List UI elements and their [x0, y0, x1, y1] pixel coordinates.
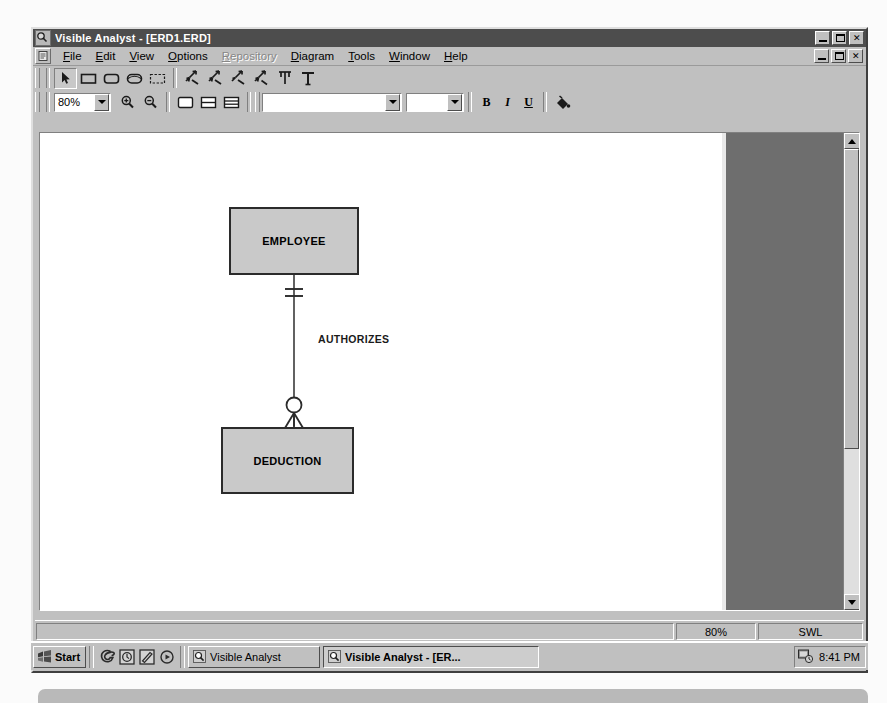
toolbar-separator [468, 92, 472, 112]
taskbar-divider [180, 646, 185, 668]
bold-button[interactable]: B [476, 92, 497, 112]
entity-deduction-label: DEDUCTION [253, 455, 321, 467]
menu-item-tools[interactable]: Tools [341, 49, 382, 63]
window-titlebar[interactable]: Visible Analyst - [ERD1.ERD] ✕ [33, 29, 866, 47]
menu-item-help[interactable]: Help [437, 49, 475, 63]
toolbar-separator [543, 92, 547, 112]
magnifier-icon [328, 650, 341, 663]
entity-rectangle-tool[interactable] [77, 68, 100, 89]
menu-item-options[interactable]: Options [161, 49, 215, 63]
view-list-button[interactable] [220, 92, 243, 113]
relationship-optional-tool[interactable] [227, 68, 250, 89]
font-family-combo[interactable] [262, 93, 402, 112]
document-client-area: EMPLOYEE DEDUCTION AUTHORIZES [35, 129, 864, 614]
text-tool[interactable] [296, 68, 319, 89]
screenshot-root: Visible Analyst - [ERD1.ERD] ✕ FileEditV… [0, 0, 887, 703]
zoom-level-value: 80% [55, 96, 94, 108]
toolbar-separator [166, 92, 170, 112]
zoom-level-combo[interactable]: 80% [54, 93, 111, 112]
font-size-combo[interactable] [406, 93, 464, 112]
toolbar-grip[interactable] [35, 92, 40, 112]
attributive-entity-tool[interactable] [123, 68, 146, 89]
windows-flag-icon [37, 650, 52, 664]
tray-status-icon[interactable] [798, 649, 814, 665]
task-label: Visible Analyst - [ER... [345, 651, 461, 663]
er-diagram: EMPLOYEE DEDUCTION AUTHORIZES [40, 133, 722, 610]
chevron-down-icon[interactable] [94, 94, 109, 111]
menu-item-repository[interactable]: Repository [215, 49, 284, 63]
child-window-controls: ✕ [814, 49, 866, 63]
associative-entity-tool[interactable] [146, 68, 169, 89]
relationship-many-tool[interactable] [204, 68, 227, 89]
entity-employee[interactable]: EMPLOYEE [229, 207, 359, 275]
chevron-down-icon[interactable] [447, 94, 462, 111]
relationship-one-tool[interactable] [181, 68, 204, 89]
status-mode: SWL [758, 623, 863, 640]
diagram-canvas-frame: EMPLOYEE DEDUCTION AUTHORIZES [39, 132, 860, 611]
diagram-page[interactable]: EMPLOYEE DEDUCTION AUTHORIZES [40, 133, 722, 610]
outlook-express-icon[interactable] [117, 647, 137, 667]
supertype-line-tool[interactable] [273, 68, 296, 89]
chevron-down-icon[interactable] [385, 94, 400, 111]
drawing-toolbar [33, 66, 866, 90]
toolbar-grip[interactable] [255, 92, 260, 112]
scroll-thumb[interactable] [844, 149, 859, 449]
status-bar: 80% SWL [35, 620, 864, 642]
window-title: Visible Analyst - [ERD1.ERD] [55, 32, 815, 44]
task-visible-analyst[interactable]: Visible Analyst [188, 646, 320, 668]
child-minimize-button[interactable] [814, 49, 829, 63]
toolbar-grip[interactable] [35, 68, 40, 88]
italic-button[interactable]: I [497, 92, 518, 112]
media-player-icon[interactable] [157, 647, 177, 667]
menu-item-file[interactable]: File [56, 49, 89, 63]
show-desktop-icon[interactable] [137, 647, 157, 667]
menu-bar: FileEditViewOptionsRepositoryDiagramTool… [33, 47, 866, 66]
menu-item-window[interactable]: Window [382, 49, 437, 63]
menu-item-diagram[interactable]: Diagram [284, 49, 341, 63]
close-button[interactable]: ✕ [849, 31, 864, 45]
toolbar-separator [46, 92, 50, 112]
view-split-button[interactable] [197, 92, 220, 113]
zoom-out-button[interactable] [139, 92, 162, 113]
relationship-authorizes-label[interactable]: AUTHORIZES [318, 333, 389, 345]
taskbar-divider [89, 646, 94, 668]
relationship-connector [40, 133, 722, 603]
toolbar-separator [247, 92, 251, 112]
window-controls: ✕ [815, 31, 864, 45]
relationship-mandatory-tool[interactable] [250, 68, 273, 89]
internet-explorer-icon[interactable] [97, 647, 117, 667]
windows-taskbar: Start [31, 641, 868, 670]
status-zoom: 80% [676, 623, 756, 640]
minimize-button[interactable] [815, 31, 830, 45]
magnifier-icon [193, 650, 206, 663]
format-toolbar: 80% [33, 90, 866, 114]
menu-item-edit[interactable]: Edit [89, 49, 123, 63]
vertical-scrollbar[interactable] [843, 133, 859, 610]
entity-employee-label: EMPLOYEE [262, 235, 326, 247]
visible-analyst-window: Visible Analyst - [ERD1.ERD] ✕ FileEditV… [31, 27, 868, 673]
system-tray: 8:41 PM [794, 646, 866, 668]
underline-button[interactable]: U [518, 92, 539, 112]
page-footer-bar [38, 689, 868, 703]
scroll-track[interactable] [844, 149, 859, 594]
paint-color-icon[interactable] [551, 92, 574, 113]
document-icon[interactable] [35, 48, 51, 64]
child-close-button[interactable]: ✕ [848, 49, 863, 63]
view-normal-button[interactable] [174, 92, 197, 113]
child-restore-button[interactable] [831, 49, 846, 63]
start-button[interactable]: Start [33, 646, 86, 668]
scroll-up-button[interactable] [844, 133, 860, 149]
scroll-down-button[interactable] [844, 594, 860, 610]
menu-items: FileEditViewOptionsRepositoryDiagramTool… [56, 49, 814, 63]
select-pointer-tool[interactable] [54, 68, 77, 89]
task-label: Visible Analyst [210, 651, 281, 663]
task-visible-analyst-erd[interactable]: Visible Analyst - [ER... [323, 646, 539, 668]
restore-button[interactable] [832, 31, 847, 45]
menu-item-view[interactable]: View [122, 49, 161, 63]
tray-clock[interactable]: 8:41 PM [819, 651, 860, 663]
entity-deduction[interactable]: DEDUCTION [221, 427, 354, 494]
status-message [36, 623, 674, 640]
toolbar-separator [173, 68, 177, 88]
rounded-entity-tool[interactable] [100, 68, 123, 89]
zoom-in-button[interactable] [116, 92, 139, 113]
